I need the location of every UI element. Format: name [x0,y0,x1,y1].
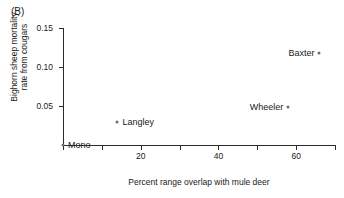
x-tick [296,146,297,150]
x-tick [180,146,181,150]
x-tick [257,146,258,150]
y-axis-title: Bighorn sheep mortality rate from cougar… [9,0,29,118]
y-tick: 0.15 [59,28,63,29]
x-tick-label: 40 [214,152,223,161]
y-tick-label: 0.10 [36,63,53,72]
y-tick: 0.05 [59,106,63,107]
y-axis-title-line1: Bighorn sheep mortality [9,0,19,118]
x-tick [335,146,336,150]
x-tick [218,146,219,150]
data-point-label-baxter: Baxter [288,48,314,58]
x-tick-label: 20 [136,152,145,161]
x-axis-title: Percent range overlap with mule deer [63,177,335,187]
x-tick [63,146,64,150]
x-tick [141,146,142,150]
x-axis-line [63,145,336,146]
y-axis-title-line2: rate from cougars [19,0,29,118]
data-point-langley [116,120,119,123]
data-point-wheeler [287,105,290,108]
y-tick: 0.10 [59,67,63,68]
figure-panel-b: (B) Bighorn sheep mortality rate from co… [0,0,344,198]
plot-area: 0.050.100.15 204060 MonoLangleyWheelerBa… [63,28,335,145]
data-point-label-mono: Mono [68,140,91,150]
y-axis-line [63,28,64,146]
data-point-label-wheeler: Wheeler [250,102,284,112]
data-point-mono [62,144,65,147]
data-point-label-langley: Langley [122,117,154,127]
x-tick [102,146,103,150]
y-tick-label: 0.05 [36,102,53,111]
x-tick-label: 60 [291,152,300,161]
y-tick-label: 0.15 [36,24,53,33]
data-point-baxter [318,51,321,54]
